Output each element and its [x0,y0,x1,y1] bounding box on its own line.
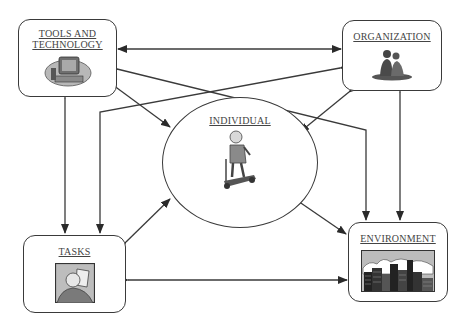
tools-label-line1: TOOLS AND [19,28,116,39]
organization-label: ORGANIZATION [343,31,441,42]
person-reading-clipart-icon [55,263,95,303]
arrow-tasks-individual [126,199,170,242]
tasks-label: TASKS [24,246,125,257]
node-individual: INDIVIDUAL [162,97,318,228]
tools-label-line2: TECHNOLOGY [19,39,116,50]
city-skyline-clipart-icon [361,250,435,292]
arrow-individual-environment [295,199,346,234]
people-group-clipart-icon [370,48,414,82]
environment-label: ENVIRONMENT [349,233,447,244]
node-environment: ENVIRONMENT [348,222,448,302]
arrow-organization-individual [300,92,349,132]
node-tools-and-technology: TOOLS AND TECHNOLOGY [18,19,117,97]
individual-label: INDIVIDUAL [163,115,317,126]
person-scooter-clipart-icon [220,129,260,191]
node-organization: ORGANIZATION [342,20,442,91]
node-tasks: TASKS [23,235,126,313]
computer-clipart-icon [43,53,93,89]
